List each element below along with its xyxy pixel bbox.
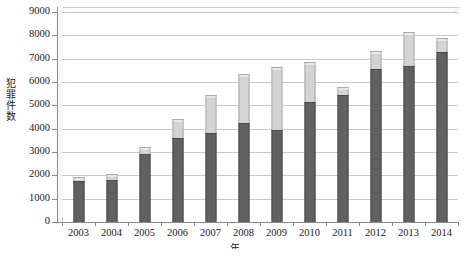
bar-segment-lower-2011 [337,95,348,222]
x-tick-end [458,222,459,226]
y-axis-title-char-1: 罪 [4,89,17,100]
x-tick-2003 [62,222,63,226]
x-tick-2013 [392,222,393,226]
bar-slot-2007 [194,12,227,222]
bar-segment-lower-2003 [73,181,84,222]
y-tick-label-4000: 4000 [2,123,50,133]
x-tick-label-2008: 2008 [227,227,260,241]
stacked-bar-2010 [304,62,315,222]
bar-segment-lower-2007 [205,133,216,222]
bar-segment-upper-2005 [139,147,150,154]
x-tick-label-2006: 2006 [161,227,194,241]
bar-segment-lower-2004 [106,180,117,222]
y-tick-9000 [52,12,57,13]
y-tick-label-8000: 8000 [2,29,50,39]
x-tick-2006 [161,222,162,226]
bar-segment-upper-2014 [436,38,447,52]
x-tick-label-2010: 2010 [293,227,326,241]
bar-segment-lower-2012 [370,69,381,222]
y-axis-title-char-0: 犯 [4,78,17,89]
x-tick-label-2005: 2005 [128,227,161,241]
bar-segment-upper-2009 [271,67,282,130]
bar-segment-upper-2013 [403,32,414,66]
y-tick-6000 [52,82,57,83]
stacked-bar-2004 [106,174,117,222]
bar-slot-2009 [260,12,293,222]
stacked-bar-2013 [403,32,414,222]
bar-segment-lower-2008 [238,123,249,222]
stacked-bar-2014 [436,38,447,222]
x-tick-2007 [194,222,195,226]
y-axis-tick-labels: 9000800070006000500040003000200010000 [0,0,50,261]
bar-segment-lower-2013 [403,66,414,222]
x-tick-2005 [128,222,129,226]
bar-slot-2005 [128,12,161,222]
y-tick-3000 [52,152,57,153]
y-axis-title: 犯罪件数 [4,78,17,122]
y-axis-title-char-2: 件 [4,100,17,111]
stacked-bar-2007 [205,95,216,222]
stacked-bar-2006 [172,119,183,222]
stacked-bar-2003 [73,177,84,222]
y-tick-label-2000: 2000 [2,169,50,179]
bar-segment-upper-2011 [337,87,348,95]
y-tick-1000 [52,199,57,200]
y-tick-label-7000: 7000 [2,53,50,63]
x-tick-2008 [227,222,228,226]
bar-slot-2003 [62,12,95,222]
y-tick-label-0: 0 [2,216,50,226]
x-axis-tick-labels: 2003200420052006200720082009201020112012… [62,227,458,241]
stacked-bar-2012 [370,51,381,222]
x-tick-2012 [359,222,360,226]
bar-slot-2006 [161,12,194,222]
stacked-bar-2008 [238,74,249,222]
bar-segment-lower-2005 [139,154,150,222]
y-tick-5000 [52,105,57,106]
y-tick-4000 [52,129,57,130]
y-tick-label-9000: 9000 [2,6,50,16]
x-tick-label-2007: 2007 [194,227,227,241]
bar-segment-upper-2006 [172,119,183,138]
bar-slot-2010 [293,12,326,222]
stacked-bar-2011 [337,87,348,222]
x-axis-line [57,222,459,223]
bar-slot-2013 [392,12,425,222]
bar-slot-2008 [227,12,260,222]
stacked-bar-2009 [271,67,282,222]
bar-segment-lower-2014 [436,52,447,222]
x-tick-label-2014: 2014 [425,227,458,241]
y-axis-title-char-3: 数 [4,111,17,122]
bar-slot-2012 [359,12,392,222]
x-tick-2014 [425,222,426,226]
y-tick-2000 [52,175,57,176]
y-tick-label-1000: 1000 [2,193,50,203]
x-tick-label-2012: 2012 [359,227,392,241]
bar-slot-2014 [425,12,458,222]
x-tick-label-2003: 2003 [62,227,95,241]
x-tick-2011 [326,222,327,226]
y-tick-7000 [52,59,57,60]
bar-segment-upper-2007 [205,95,216,134]
bar-segment-upper-2008 [238,74,249,123]
x-tick-2009 [260,222,261,226]
x-tick-2010 [293,222,294,226]
x-tick-2004 [95,222,96,226]
x-tick-label-2004: 2004 [95,227,128,241]
x-tick-label-2013: 2013 [392,227,425,241]
bar-segment-lower-2010 [304,102,315,222]
stacked-bar-2005 [139,147,150,222]
bar-slot-2004 [95,12,128,222]
bar-segment-lower-2009 [271,130,282,222]
x-tick-label-2009: 2009 [260,227,293,241]
x-tick-label-2011: 2011 [326,227,359,241]
bar-segment-lower-2006 [172,138,183,222]
y-tick-label-3000: 3000 [2,146,50,156]
bar-chart: 9000800070006000500040003000200010000 犯罪… [0,0,470,261]
y-tick-8000 [52,35,57,36]
bar-segment-upper-2010 [304,62,315,102]
bar-series-group [62,12,458,222]
bar-segment-upper-2012 [370,51,381,70]
bar-slot-2011 [326,12,359,222]
y-axis-line [57,7,58,222]
legend-strip-cropped [0,249,470,261]
